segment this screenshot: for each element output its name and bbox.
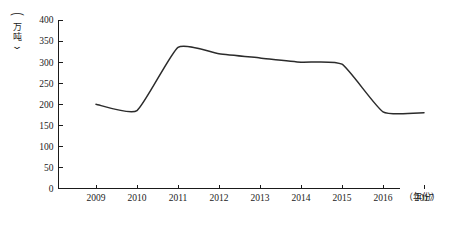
x-tick-label: 2010 [128, 193, 147, 203]
y-tick-label: 200 [39, 100, 54, 110]
y-axis-tick-labels: 050100150200250300350400 [39, 15, 54, 194]
y-tick-label: 250 [39, 79, 54, 89]
x-axis-ticks [96, 185, 424, 189]
x-axis: 200920102011201220132014201520162017 [59, 185, 434, 203]
chart-canvas: 050100150200250300350400 200920102011201… [0, 0, 457, 225]
y-tick-label: 400 [39, 15, 54, 25]
x-tick-label: 2012 [210, 193, 229, 203]
data-series-line [96, 46, 424, 114]
y-tick-label: 350 [39, 36, 54, 46]
x-tick-label: 2011 [169, 193, 188, 203]
y-axis-unit-label: ⌒ 万 吨 ⌄ [6, 14, 28, 52]
y-tick-label: 0 [49, 184, 54, 194]
x-axis-tick-labels: 200920102011201220132014201520162017 [87, 193, 434, 203]
x-axis-unit-label: （年份） [404, 190, 440, 203]
y-tick-label: 300 [39, 58, 54, 68]
y-tick-label: 50 [44, 163, 54, 173]
x-tick-label: 2016 [374, 193, 393, 203]
x-tick-label: 2014 [292, 193, 311, 203]
y-tick-label: 150 [39, 121, 54, 131]
x-tick-label: 2013 [251, 193, 270, 203]
line-chart: ⌒ 万 吨 ⌄ （年份） 050100150200250300350400 20… [0, 0, 457, 225]
x-tick-label: 2015 [333, 193, 352, 203]
y-tick-label: 100 [39, 142, 54, 152]
y-axis: 050100150200250300350400 [39, 15, 62, 194]
x-tick-label: 2009 [87, 193, 106, 203]
y-axis-ticks [59, 20, 63, 189]
y-axis-paren-close: ⌄ [0, 42, 35, 51]
y-axis-paren-open: ⌒ [0, 14, 35, 23]
